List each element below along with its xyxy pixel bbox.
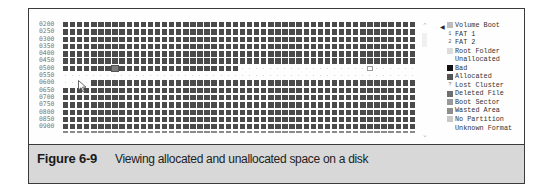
cluster-allocated[interactable] xyxy=(204,110,209,115)
cluster-allocated[interactable] xyxy=(325,44,330,49)
cluster-allocated[interactable] xyxy=(84,102,89,107)
cluster-allocated[interactable] xyxy=(339,88,344,93)
cluster-allocated[interactable] xyxy=(91,44,96,49)
cluster-allocated[interactable] xyxy=(183,37,188,42)
cluster-allocated[interactable] xyxy=(381,37,386,42)
cluster-allocated[interactable] xyxy=(219,51,224,56)
cluster-allocated[interactable] xyxy=(70,51,75,56)
cluster-allocated[interactable] xyxy=(403,44,408,49)
cluster-allocated[interactable] xyxy=(169,124,174,129)
cluster-allocated[interactable] xyxy=(339,22,344,27)
cluster-allocated[interactable] xyxy=(91,110,96,115)
cluster-allocated[interactable] xyxy=(98,22,103,27)
cluster-allocated[interactable] xyxy=(346,95,351,100)
cluster-allocated[interactable] xyxy=(169,95,174,100)
cluster-allocated[interactable] xyxy=(155,29,160,34)
cluster-allocated[interactable] xyxy=(311,58,316,63)
cluster-allocated[interactable] xyxy=(247,95,252,100)
cluster-allocated[interactable] xyxy=(360,37,365,42)
cluster-allocated[interactable] xyxy=(105,124,110,129)
cluster-allocated[interactable] xyxy=(183,117,188,122)
cluster-allocated[interactable] xyxy=(183,58,188,63)
cluster-allocated[interactable] xyxy=(226,117,231,122)
cluster-allocated[interactable] xyxy=(339,29,344,34)
cluster-allocated[interactable] xyxy=(346,22,351,27)
cluster-allocated[interactable] xyxy=(190,51,195,56)
cluster-allocated[interactable] xyxy=(268,95,273,100)
cluster-allocated[interactable] xyxy=(268,124,273,129)
cluster-allocated[interactable] xyxy=(360,80,365,85)
cluster-allocated[interactable] xyxy=(169,66,174,71)
cluster-allocated[interactable] xyxy=(374,51,379,56)
cluster-unallocated[interactable] xyxy=(346,73,351,78)
cluster-allocated[interactable] xyxy=(63,51,68,56)
cluster-allocated[interactable] xyxy=(261,110,266,115)
cluster-allocated[interactable] xyxy=(162,22,167,27)
cluster-allocated[interactable] xyxy=(296,124,301,129)
cluster-unallocated[interactable] xyxy=(211,73,216,78)
cluster-allocated[interactable] xyxy=(360,110,365,115)
cluster-allocated[interactable] xyxy=(148,124,153,129)
cluster-allocated[interactable] xyxy=(127,51,132,56)
cluster-allocated[interactable] xyxy=(403,80,408,85)
cluster-allocated[interactable] xyxy=(346,110,351,115)
cluster-allocated[interactable] xyxy=(134,117,139,122)
cluster-unallocated[interactable] xyxy=(304,66,309,71)
cluster-allocated[interactable] xyxy=(296,110,301,115)
cluster-allocated[interactable] xyxy=(63,29,68,34)
cluster-allocated[interactable] xyxy=(289,117,294,122)
cluster-unallocated[interactable] xyxy=(381,66,386,71)
cluster-allocated[interactable] xyxy=(155,124,160,129)
cluster-allocated[interactable] xyxy=(127,88,132,93)
cluster-allocated[interactable] xyxy=(105,44,110,49)
cluster-allocated[interactable] xyxy=(219,22,224,27)
cluster-allocated[interactable] xyxy=(388,37,393,42)
cluster-allocated[interactable] xyxy=(240,29,245,34)
cluster-allocated[interactable] xyxy=(77,37,82,42)
cluster-allocated[interactable] xyxy=(134,58,139,63)
cluster-allocated[interactable] xyxy=(254,88,259,93)
cluster-allocated[interactable] xyxy=(226,95,231,100)
cluster-allocated[interactable] xyxy=(148,110,153,115)
cluster-allocated[interactable] xyxy=(141,80,146,85)
cluster-allocated[interactable] xyxy=(70,29,75,34)
cluster-allocated[interactable] xyxy=(275,29,280,34)
cluster-allocated[interactable] xyxy=(112,110,117,115)
cluster-unallocated[interactable] xyxy=(240,73,245,78)
cluster-allocated[interactable] xyxy=(148,22,153,27)
cluster-allocated[interactable] xyxy=(275,37,280,42)
cluster-allocated[interactable] xyxy=(162,37,167,42)
cluster-allocated[interactable] xyxy=(289,124,294,129)
cluster-allocated[interactable] xyxy=(296,80,301,85)
cluster-allocated[interactable] xyxy=(211,29,216,34)
cluster-allocated[interactable] xyxy=(367,44,372,49)
cluster-unallocated[interactable] xyxy=(91,73,96,78)
cluster-allocated[interactable] xyxy=(112,51,117,56)
cluster-allocated[interactable] xyxy=(353,88,358,93)
cluster-unallocated[interactable] xyxy=(162,73,167,78)
cluster-allocated[interactable] xyxy=(332,88,337,93)
cluster-allocated[interactable] xyxy=(148,51,153,56)
cluster-allocated[interactable] xyxy=(70,102,75,107)
cluster-allocated[interactable] xyxy=(169,58,174,63)
cluster-allocated[interactable] xyxy=(155,117,160,122)
cluster-allocated[interactable] xyxy=(254,51,259,56)
cluster-allocated[interactable] xyxy=(197,37,202,42)
cluster-allocated[interactable] xyxy=(119,44,124,49)
cluster-allocated[interactable] xyxy=(275,102,280,107)
cluster-allocated[interactable] xyxy=(134,22,139,27)
cluster-allocated[interactable] xyxy=(70,22,75,27)
cluster-allocated[interactable] xyxy=(261,88,266,93)
cluster-allocated[interactable] xyxy=(410,88,415,93)
cluster-allocated[interactable] xyxy=(360,29,365,34)
cluster-allocated[interactable] xyxy=(268,80,273,85)
cluster-allocated[interactable] xyxy=(240,110,245,115)
cluster-allocated[interactable] xyxy=(134,29,139,34)
cluster-allocated[interactable] xyxy=(155,102,160,107)
cluster-unallocated[interactable] xyxy=(403,73,408,78)
cluster-allocated[interactable] xyxy=(247,29,252,34)
cluster-allocated[interactable] xyxy=(247,117,252,122)
cluster-allocated[interactable] xyxy=(204,58,209,63)
cluster-allocated[interactable] xyxy=(410,44,415,49)
cluster-allocated[interactable] xyxy=(261,102,266,107)
